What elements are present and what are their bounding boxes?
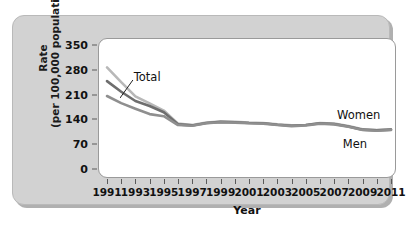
x-tick-mark-2003 [277,179,278,184]
y-tick-label-280: 280 [54,63,88,76]
x-tick-label-2007: 2007 [320,186,349,198]
y-tick-mark-350 [92,45,97,46]
x-tick-label-1993: 1993 [121,186,150,198]
x-tick-mark-2004 [292,179,293,184]
x-tick-mark-2010 [377,179,378,184]
x-tick-label-1995: 1995 [149,186,178,198]
y-tick-label-0: 0 [54,163,88,176]
x-tick-mark-2001 [249,179,250,184]
x-tick-mark-2007 [334,179,335,184]
x-tick-mark-2005 [306,179,307,184]
y-tick-label-140: 140 [54,113,88,126]
y-tick-mark-280 [92,69,97,70]
x-tick-mark-1993 [135,179,136,184]
x-tick-label-2005: 2005 [291,186,320,198]
x-tick-mark-1997 [192,179,193,184]
x-tick-mark-1995 [164,179,165,184]
y-tick-label-350: 350 [54,39,88,52]
y-axis-title-line1: Rate [37,44,49,71]
x-tick-mark-2008 [348,179,349,184]
x-tick-label-2009: 2009 [348,186,377,198]
y-tick-label-70: 70 [54,138,88,151]
x-tick-mark-2011 [391,179,392,184]
x-tick-mark-1998 [206,179,207,184]
x-tick-label-2001: 2001 [234,186,263,198]
y-tick-mark-140 [92,119,97,120]
x-tick-mark-1994 [150,179,151,184]
x-tick-mark-2000 [235,179,236,184]
chart-figure: Rate(per 100,000 population) 35028021014… [0,0,412,233]
series-label-men: Men [343,137,367,151]
x-tick-mark-1992 [121,179,122,184]
x-tick-mark-2006 [320,179,321,184]
y-tick-mark-0 [92,169,97,170]
x-tick-mark-1991 [107,179,108,184]
y-tick-mark-210 [92,94,97,95]
series-label-women: Women [337,108,380,122]
x-tick-label-1997: 1997 [178,186,207,198]
chart-panel: Rate(per 100,000 population) 35028021014… [12,15,390,205]
y-tick-label-210: 210 [54,88,88,101]
x-tick-label-2003: 2003 [263,186,292,198]
total-leader-line [120,80,135,100]
leader-stroke [120,80,133,98]
y-tick-mark-70 [92,144,97,145]
x-tick-label-1999: 1999 [206,186,235,198]
x-tick-label-1991: 1991 [92,186,121,198]
x-tick-label-2011: 2011 [376,186,405,198]
x-tick-mark-2002 [263,179,264,184]
series-label-total: Total [134,70,161,84]
x-tick-mark-1996 [178,179,179,184]
x-tick-mark-1999 [221,179,222,184]
x-axis-title: Year [233,204,260,217]
x-tick-mark-2009 [363,179,364,184]
